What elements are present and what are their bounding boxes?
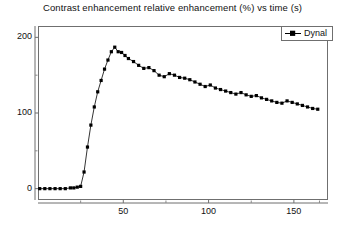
legend-entry-label: Dynal [304, 29, 327, 38]
y-axis-tick-label: 0 [4, 183, 32, 193]
x-axis-tick-label: 100 [194, 206, 224, 216]
x-axis-tick-label: 150 [279, 206, 309, 216]
y-axis-tick-label: 100 [4, 107, 32, 117]
chart-legend: Dynal [281, 26, 333, 41]
chart-figure: Contrast enhancement relative enhancemen… [0, 0, 345, 230]
axis-ticks [35, 26, 328, 203]
data-series-layer [38, 46, 319, 191]
x-axis-tick-label: 50 [108, 206, 138, 216]
legend-marker-icon [285, 30, 301, 37]
y-axis-tick-label: 200 [4, 31, 32, 41]
